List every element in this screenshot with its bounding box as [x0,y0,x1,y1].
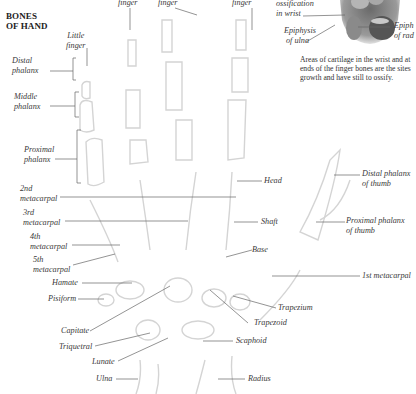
label-middle-phalanx-line1: Middle [14,92,40,102]
label-capitate: Capitate [61,326,89,336]
label-ring-finger: finger [118,0,138,8]
note-line-2: ends of the finger bones are the sites [300,64,416,73]
label-scaphoid: Scaphoid [236,336,266,346]
label-epiphysis-radius-line1: Epiph [394,21,414,31]
label-5th-metacarpal-line1: 5th [33,255,70,265]
diagram-title: BONES OF HAND [6,11,48,31]
label-epiphysis-radius: Epiph of rad [394,21,414,40]
label-middle-finger: finger [158,0,178,8]
label-proximal-thumb-line2: of thumb [346,226,405,236]
label-index-finger: finger [232,0,252,8]
label-proximal-phalanx-line1: Proximal [24,145,54,155]
label-ossification-line2: in wrist [276,9,314,19]
label-ossification: ossification in wrist [276,0,314,18]
label-3rd-metacarpal-line2: metacarpal [23,218,60,228]
label-middle-phalanx-line2: phalanx [14,102,40,112]
label-distal-phalanx-line2: phalanx [12,66,38,76]
note-line-1: Areas of cartilage in the wrist and at [300,55,416,64]
label-2nd-metacarpal: 2nd metacarpal [20,184,57,203]
label-base: Base [252,245,268,255]
label-4th-metacarpal-line2: metacarpal [30,242,67,252]
label-3rd-metacarpal-line1: 3rd [23,208,60,218]
label-head: Head [264,176,282,186]
label-4th-metacarpal-line1: 4th [30,232,67,242]
label-proximal-thumb-line1: Proximal phalanx [346,216,405,226]
label-little-finger: Little finger [66,31,86,50]
label-2nd-metacarpal-line2: metacarpal [20,194,57,204]
label-trapezium: Trapezium [278,303,313,313]
label-2nd-metacarpal-line1: 2nd [20,184,57,194]
label-3rd-metacarpal: 3rd metacarpal [23,208,60,227]
label-trapezoid: Trapezoid [254,318,287,328]
label-distal-phalanx-thumb: Distal phalanx of thumb [362,169,410,188]
label-pisiform: Pisiform [48,294,76,304]
label-epiphysis-radius-line2: of rad [394,31,414,41]
label-distal-thumb-line1: Distal phalanx [362,169,410,179]
label-little-finger-line1: Little [66,31,86,41]
label-1st-metacarpal: 1st metacarpal [362,271,411,281]
label-epiphysis-ulna: Epiphysis of ulna [284,26,316,45]
label-epiphysis-ulna-line2: of ulna [284,36,316,46]
label-ossification-line1: ossification [276,0,314,9]
title-line-2: OF HAND [6,21,48,31]
label-proximal-phalanx-line2: phalanx [24,155,54,165]
label-ulna: Ulna [96,374,112,384]
label-hamate: Hamate [52,278,78,288]
label-proximal-phalanx-thumb: Proximal phalanx of thumb [346,216,405,235]
label-radius: Radius [248,374,271,384]
label-middle-phalanx: Middle phalanx [14,92,40,111]
label-4th-metacarpal: 4th metacarpal [30,232,67,251]
label-triquetral: Triquetral [59,342,92,352]
note-line-3: growth and have still to ossify. [300,73,416,82]
label-distal-thumb-line2: of thumb [362,179,410,189]
label-distal-phalanx: Distal phalanx [12,56,38,75]
label-distal-phalanx-line1: Distal [12,56,38,66]
label-shaft: Shaft [261,217,278,227]
label-5th-metacarpal-line2: metacarpal [33,265,70,275]
label-5th-metacarpal: 5th metacarpal [33,255,70,274]
label-little-finger-line2: finger [66,41,86,51]
label-proximal-phalanx: Proximal phalanx [24,145,54,164]
label-lunate: Lunate [92,357,115,367]
title-line-1: BONES [6,11,48,21]
label-epiphysis-ulna-line1: Epiphysis [284,26,316,36]
cartilage-note: Areas of cartilage in the wrist and at e… [300,55,416,83]
